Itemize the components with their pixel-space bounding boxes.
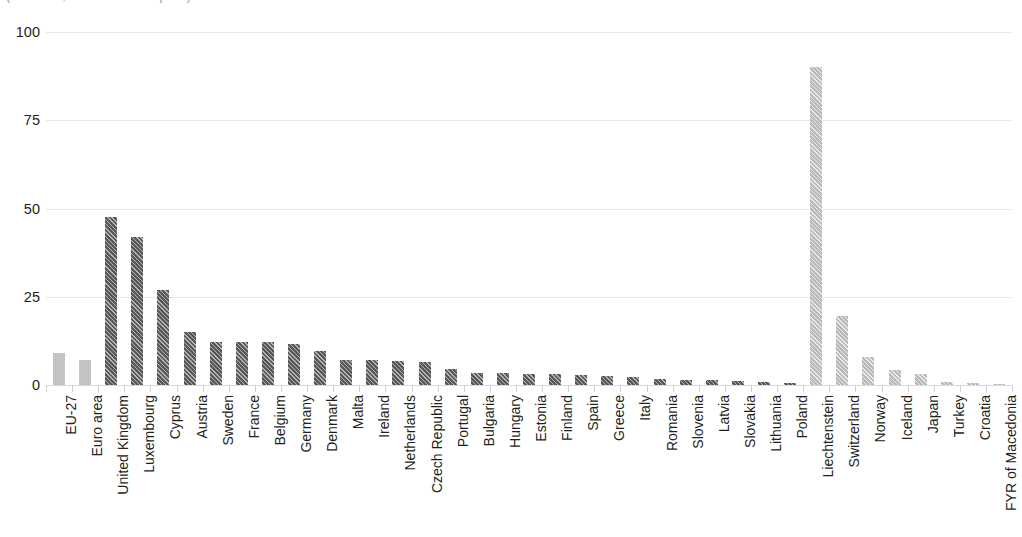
x-axis-tick: Austria	[177, 385, 203, 537]
x-axis-tick: Romania	[647, 385, 673, 537]
x-axis-tick: EU-27	[46, 385, 72, 537]
bar	[314, 351, 326, 385]
bar-slot	[98, 32, 124, 385]
x-axis-tick: Ireland	[359, 385, 385, 537]
bar-slot	[620, 32, 646, 385]
bar-slot	[464, 32, 490, 385]
bar	[445, 369, 457, 385]
bar-slot	[46, 32, 72, 385]
x-axis-tick-mark	[777, 385, 778, 392]
x-axis-tick-mark	[1012, 385, 1013, 392]
x-axis-tick-mark	[882, 385, 883, 392]
bar	[627, 377, 639, 385]
x-axis-tick-mark	[124, 385, 125, 392]
bar	[105, 217, 117, 385]
x-axis-tick: Spain	[568, 385, 594, 537]
y-axis-tick-label: 100	[2, 25, 40, 39]
x-axis-tick: Denmark	[307, 385, 333, 537]
bar	[810, 67, 822, 385]
x-axis-tick-mark	[490, 385, 491, 392]
bar-slot	[385, 32, 411, 385]
x-axis-tick-mark	[177, 385, 178, 392]
x-axis-tick-mark	[986, 385, 987, 392]
x-axis-tick: FYR of Macedonia	[986, 385, 1012, 537]
x-axis-tick-mark	[464, 385, 465, 392]
x-axis-tick: Switzerland	[829, 385, 855, 537]
x-axis-tick-mark	[829, 385, 830, 392]
bar	[131, 237, 143, 385]
bar-slot	[855, 32, 881, 385]
x-axis-tick: Iceland	[882, 385, 908, 537]
bar	[288, 344, 300, 385]
x-axis-tick: Finland	[542, 385, 568, 537]
bar	[340, 360, 352, 385]
bar	[79, 360, 91, 385]
x-axis-tick-mark	[46, 385, 47, 392]
y-axis-tick-label: 25	[2, 290, 40, 304]
x-axis-tick: Slovakia	[725, 385, 751, 537]
bar-slot	[177, 32, 203, 385]
bar	[915, 374, 927, 385]
x-axis-tick-mark	[98, 385, 99, 392]
bar	[157, 290, 169, 385]
bar-slot	[882, 32, 908, 385]
bar-slot	[803, 32, 829, 385]
bar-slot	[438, 32, 464, 385]
x-axis-tick: Japan	[908, 385, 934, 537]
x-axis-tick: Liechtenstein	[803, 385, 829, 537]
x-axis-tick: Poland	[777, 385, 803, 537]
x-axis-tick: Hungary	[490, 385, 516, 537]
bar	[184, 332, 196, 385]
x-axis-tick: Greece	[594, 385, 620, 537]
bar-slot	[986, 32, 1012, 385]
bar	[53, 353, 65, 385]
bar	[262, 342, 274, 385]
x-axis-tick: Czech Republic	[412, 385, 438, 537]
x-axis-tick: Luxembourg	[124, 385, 150, 537]
x-axis-tick: Italy	[620, 385, 646, 537]
y-axis-tick-label: 0	[2, 378, 40, 392]
bars-container	[46, 32, 1012, 385]
bar	[497, 373, 509, 385]
x-axis-tick-mark	[385, 385, 386, 392]
x-axis-tick-mark	[438, 385, 439, 392]
x-axis-tick-mark	[150, 385, 151, 392]
x-axis-tick-mark	[281, 385, 282, 392]
x-axis-tick-mark	[751, 385, 752, 392]
bar-slot	[229, 32, 255, 385]
x-axis-tick: Sweden	[203, 385, 229, 537]
x-axis-tick-mark	[568, 385, 569, 392]
x-axis-tick: Portugal	[438, 385, 464, 537]
x-axis-tick-mark	[359, 385, 360, 392]
bar-slot	[673, 32, 699, 385]
x-axis: EU-27Euro areaUnited KingdomLuxembourgCy…	[46, 385, 1012, 537]
x-axis-tick: Cyprus	[150, 385, 176, 537]
x-axis-tick-mark	[699, 385, 700, 392]
bar-slot	[647, 32, 673, 385]
bar-slot	[908, 32, 934, 385]
bar-slot	[829, 32, 855, 385]
x-axis-tick: Slovenia	[673, 385, 699, 537]
x-axis-tick-label: FYR of Macedonia	[1004, 395, 1018, 511]
bar	[366, 360, 378, 385]
x-axis-tick: Norway	[855, 385, 881, 537]
x-axis-tick-mark	[203, 385, 204, 392]
x-axis-tick-mark	[72, 385, 73, 392]
x-axis-tick: Euro area	[72, 385, 98, 537]
bar-chart: (% of total, all sizes of enterprise) 02…	[0, 0, 1022, 537]
x-axis-tick-mark	[542, 385, 543, 392]
x-axis-tick-mark	[333, 385, 334, 392]
x-axis-tick: Bulgaria	[464, 385, 490, 537]
bar	[392, 361, 404, 385]
x-axis-tick-mark	[803, 385, 804, 392]
bar-slot	[960, 32, 986, 385]
x-axis-tick: France	[229, 385, 255, 537]
x-axis-tick-mark	[412, 385, 413, 392]
x-axis-tick-mark	[594, 385, 595, 392]
bar-slot	[751, 32, 777, 385]
bar-slot	[359, 32, 385, 385]
bar-slot	[203, 32, 229, 385]
bar-slot	[333, 32, 359, 385]
x-axis-tick-mark	[673, 385, 674, 392]
x-axis-tick-mark	[229, 385, 230, 392]
